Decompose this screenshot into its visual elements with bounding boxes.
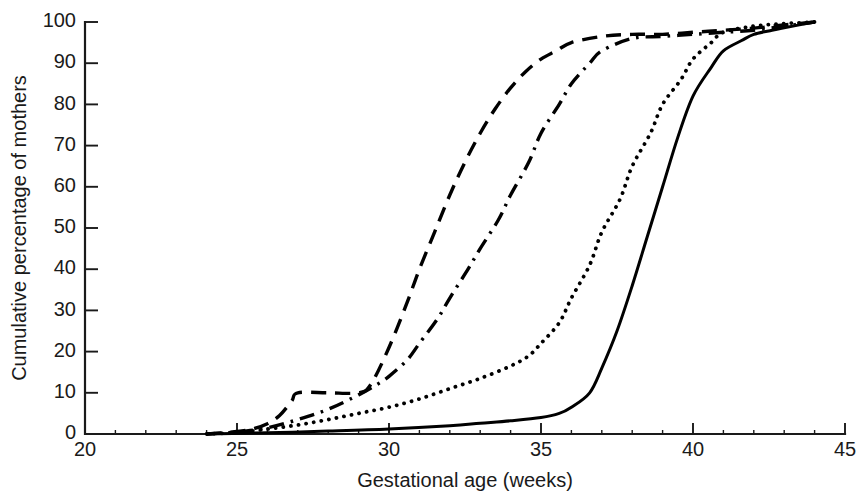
y-axis-tick-label: 80 bbox=[54, 92, 76, 114]
series-line-solid bbox=[207, 22, 815, 434]
y-axis-tick-label: 30 bbox=[54, 298, 76, 320]
axis-spine-path bbox=[85, 22, 845, 434]
y-axis-tick-label: 10 bbox=[54, 380, 76, 402]
chart-figure: 202530354045 0102030405060708090100 Gest… bbox=[0, 0, 866, 500]
y-axis-tick-label: 60 bbox=[54, 174, 76, 196]
y-axis-tick-label: 100 bbox=[43, 9, 76, 31]
chart-canvas: 202530354045 0102030405060708090100 Gest… bbox=[0, 0, 866, 500]
x-axis-tick-label: 30 bbox=[378, 438, 400, 460]
y-axis-title: Cumulative percentage of mothers bbox=[8, 75, 30, 381]
series-group bbox=[207, 22, 815, 434]
y-axis-tick-label: 50 bbox=[54, 215, 76, 237]
series-line-dashed bbox=[207, 22, 815, 434]
series-line-dotted bbox=[207, 22, 815, 434]
x-axis-tick-labels: 202530354045 bbox=[74, 438, 856, 460]
y-axis-tick-labels: 0102030405060708090100 bbox=[43, 9, 76, 443]
y-axis-tick-label: 20 bbox=[54, 339, 76, 361]
y-axis-tick-label: 40 bbox=[54, 256, 76, 278]
axis-spines bbox=[85, 22, 845, 434]
x-axis-tick-label: 35 bbox=[530, 438, 552, 460]
series-line-dash-dot bbox=[207, 22, 815, 434]
x-axis-tick-label: 45 bbox=[834, 438, 856, 460]
y-axis-tick-label: 0 bbox=[65, 421, 76, 443]
x-axis-title: Gestational age (weeks) bbox=[357, 469, 573, 491]
x-axis-tick-label: 20 bbox=[74, 438, 96, 460]
x-axis-tick-label: 40 bbox=[682, 438, 704, 460]
x-axis-tick-label: 25 bbox=[226, 438, 248, 460]
y-axis-tick-label: 70 bbox=[54, 133, 76, 155]
y-axis-major-ticks bbox=[85, 22, 98, 393]
y-axis-tick-label: 90 bbox=[54, 50, 76, 72]
